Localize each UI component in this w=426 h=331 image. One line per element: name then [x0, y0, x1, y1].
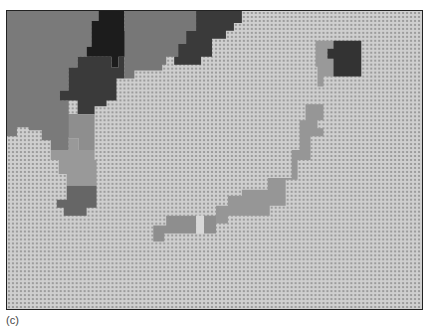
figure-caption: (c): [6, 314, 19, 326]
region-southwest-island-light: [196, 216, 204, 234]
map-canvas: [7, 11, 422, 309]
region-southwest-island-east: [204, 216, 216, 234]
map-frame: [6, 10, 423, 310]
